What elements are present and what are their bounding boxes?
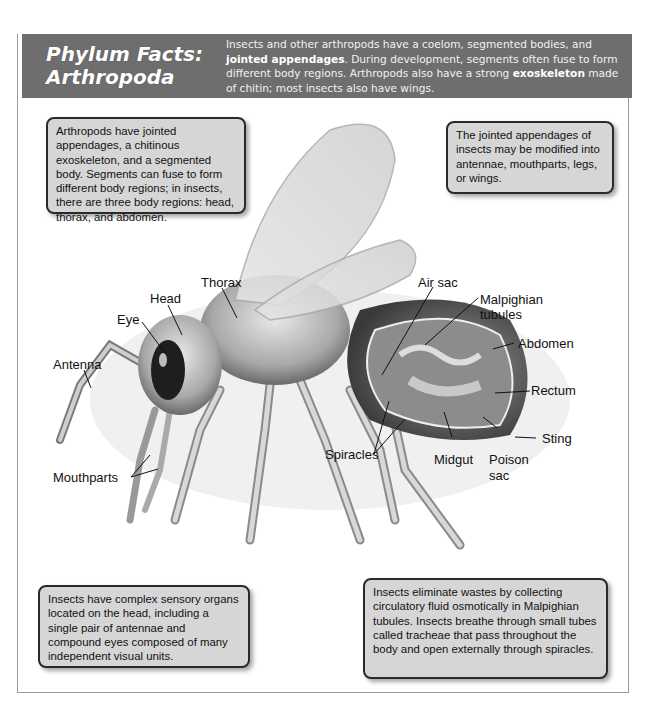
label-sting: Sting xyxy=(542,431,572,446)
info-box-sensory-organs: Insects have complex sensory organs loca… xyxy=(38,585,250,668)
info-box-arthropod-traits: Arthropods have jointed appendages, a ch… xyxy=(46,117,246,214)
label-midgut: Midgut xyxy=(434,452,473,467)
label-malpighian-tubules: Malpighiantubules xyxy=(480,292,543,322)
label-text: tubules xyxy=(480,307,522,322)
label-abdomen: Abdomen xyxy=(518,336,574,351)
info-box-jointed-appendages: The jointed appendages of insects may be… xyxy=(446,121,614,194)
label-text: sac xyxy=(489,468,509,483)
label-text: Malpighian xyxy=(480,292,543,307)
label-eye: Eye xyxy=(117,312,139,327)
label-text: Poison xyxy=(489,452,529,467)
label-head: Head xyxy=(150,291,181,306)
label-rectum: Rectum xyxy=(531,383,576,398)
label-antenna: Antenna xyxy=(53,357,101,372)
label-mouthparts: Mouthparts xyxy=(53,470,118,485)
label-thorax: Thorax xyxy=(201,275,241,290)
info-box-excretion-respiration: Insects eliminate wastes by collecting c… xyxy=(363,578,608,679)
label-spiracles: Spiracles xyxy=(325,447,378,462)
label-poison-sac: Poisonsac xyxy=(489,452,529,484)
label-air-sac: Air sac xyxy=(418,275,458,290)
